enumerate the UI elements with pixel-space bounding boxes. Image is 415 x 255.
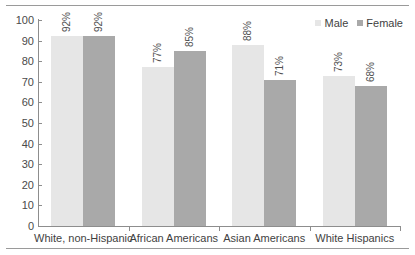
y-axis-tick-label: 60 [4,97,34,108]
y-axis-tick-labels: 0102030405060708090100 [0,0,34,255]
bar-value-label: 73% [334,52,344,72]
bar-female-1 [174,51,206,226]
bar-male-2 [232,45,264,226]
x-axis-tick-mark [219,226,220,231]
bar-female-2 [264,80,296,226]
legend-item-label: Female [366,17,403,29]
x-axis-tick-mark [400,226,401,231]
bar-value-label: 92% [62,12,72,32]
square-swatch-icon [315,20,321,26]
category-label-3: White Hispanics [315,232,394,244]
chart-legend: MaleFemale [315,17,403,29]
y-axis-tick-mark [38,226,42,227]
y-axis-tick-label: 10 [4,200,34,211]
y-axis-tick-label: 0 [4,221,34,232]
bar-value-label: 68% [366,62,376,82]
legend-item-label: Male [324,17,348,29]
y-axis-tick-label: 20 [4,179,34,190]
y-axis-tick-label: 40 [4,138,34,149]
bar-value-label: 85% [185,27,195,47]
bar-female-3 [355,86,387,226]
bottom-divider-rule [6,248,409,249]
legend-item-male[interactable]: Male [315,17,348,29]
bar-value-label: 77% [153,43,163,63]
top-divider-rule [6,5,409,6]
bar-male-0 [51,36,83,226]
x-axis-tick-mark [310,226,311,231]
bar-value-label: 92% [94,12,104,32]
y-axis-tick-label: 50 [4,118,34,129]
y-axis-tick-label: 80 [4,56,34,67]
bar-male-3 [323,76,355,226]
bar-female-0 [83,36,115,226]
y-axis-tick-label: 100 [4,15,34,26]
y-axis-tick-label: 30 [4,159,34,170]
category-label-1: African Americans [129,232,218,244]
bar-chart-figure: 0102030405060708090100 92%92%77%85%88%71… [0,0,415,255]
legend-item-female[interactable]: Female [357,17,403,29]
plot-area: 92%92%77%85%88%71%73%68% [38,20,400,226]
square-swatch-icon [357,20,363,26]
y-axis-tick-label: 70 [4,76,34,87]
category-label-0: White, non-Hispanic [34,232,132,244]
bar-value-label: 71% [275,56,285,76]
bar-male-1 [142,67,174,226]
category-label-2: Asian Americans [223,232,305,244]
bar-value-label: 88% [243,21,253,41]
y-axis-tick-label: 90 [4,35,34,46]
x-axis-tick-mark [129,226,130,231]
